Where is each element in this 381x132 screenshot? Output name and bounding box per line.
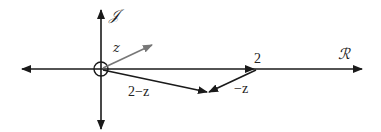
complex-plane-diagram: 𝒥 ℛ z 2−z 2 −z (0, 0, 381, 132)
label-2: 2 (254, 51, 261, 66)
vector-2-minus-z (103, 70, 207, 92)
imag-axis-label: 𝒥 (108, 6, 125, 24)
real-axis-label: ℛ (338, 45, 351, 63)
vector-minus-z (209, 70, 256, 92)
label-z: z (112, 40, 120, 55)
label-2-minus-z: 2−z (128, 84, 149, 99)
label-minus-z: −z (234, 81, 248, 96)
vector-z (103, 45, 152, 68)
